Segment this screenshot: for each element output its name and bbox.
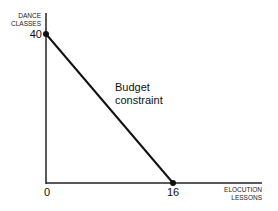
budget-constraint-line [46, 34, 173, 183]
x-axis-label-line2: LESSONS [231, 194, 262, 201]
x-intercept-point [170, 180, 176, 186]
y-axis-label-line1: DANCE [18, 12, 41, 19]
y-axis-label-line2: CLASSES [11, 20, 42, 27]
y-tick-40: 40 [30, 28, 42, 40]
budget-constraint-chart: DANCE CLASSES 40 0 16 ELOCUTION LESSONS … [0, 0, 278, 211]
x-tick-16: 16 [167, 186, 179, 198]
y-intercept-point [43, 31, 49, 37]
x-tick-0: 0 [44, 186, 50, 198]
x-axis-label-line1: ELOCUTION [224, 186, 262, 193]
annotation-line2: constraint [115, 94, 163, 106]
annotation-line1: Budget [115, 81, 150, 93]
